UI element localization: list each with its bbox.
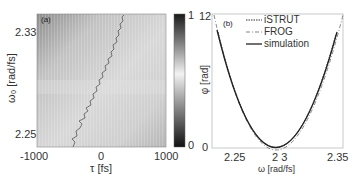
panel-a-xtick-neg1000: -1000 — [20, 150, 48, 162]
panel-b-label: (b) — [223, 19, 233, 28]
panel-a-ytick-2-25: 2.25 — [15, 128, 36, 140]
panel-a-xtick-1000: 1000 — [154, 150, 178, 162]
colorbar-tick-0: 0 — [188, 139, 194, 151]
panel-b-xtick-2-25: 2.25 — [224, 151, 245, 163]
legend-frog: FROG — [264, 26, 293, 37]
panel-a-xlabel: τ [fs] — [90, 162, 112, 174]
panel-b-xlabel: ω [rad/fs] — [258, 164, 295, 174]
panel-a-label: (a) — [41, 15, 51, 24]
panel-b-xtick-2-35: 2.35 — [327, 151, 348, 163]
panel-a-ylabel: ω₀ [rad/fs] — [5, 53, 17, 103]
colorbar-tick-1: 1 — [188, 9, 194, 21]
panel-b-ylabel: φ [rad] — [199, 65, 210, 94]
panel-a-heatmap — [37, 14, 166, 147]
panel-b-ytick-12: 12 — [199, 10, 211, 22]
panel-a-xtick-0: 0 — [98, 150, 104, 162]
panel-a-ytick-2-33: 2.33 — [15, 26, 36, 38]
colorbar — [174, 14, 185, 147]
legend-istrut: iSTRUT — [264, 14, 300, 25]
panel-b-xtick-2-3: 2 3 — [272, 151, 287, 163]
legend-simulation: simulation — [264, 38, 309, 49]
panel-b-ytick-0: 0 — [202, 141, 208, 153]
